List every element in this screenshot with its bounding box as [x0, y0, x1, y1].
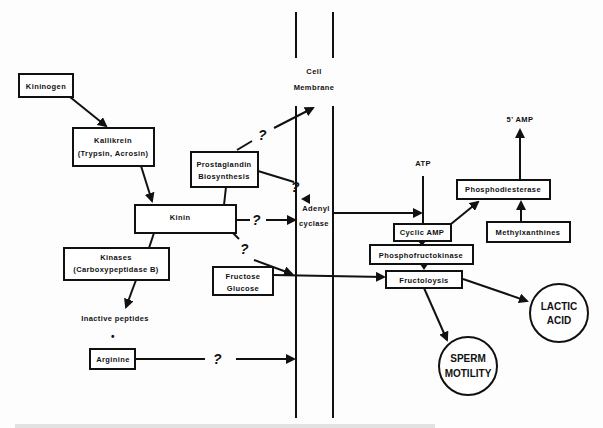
- inactive-peptides-label: Inactive peptides: [81, 314, 149, 323]
- question-mark: ?: [252, 212, 261, 228]
- bullet: •: [111, 331, 115, 342]
- cyclase-label: cyclase: [299, 219, 329, 228]
- question-mark: ?: [240, 241, 249, 257]
- arrow-fructolysis-sperm: [424, 288, 447, 340]
- node-prostaglandin: Prostaglandin Biosynthesis: [191, 152, 258, 187]
- node-kininogen: Kininogen: [19, 74, 73, 97]
- cell-membrane: Cell Membrane: [294, 12, 335, 418]
- diagram-canvas: Cell Membrane Kininogen Kallikrein (Tryp…: [0, 0, 603, 428]
- svg-text:Glucose: Glucose: [227, 284, 259, 293]
- line-prostaglandin-adenyl: [258, 171, 294, 182]
- arrow-kallikrein-kinin: [141, 166, 152, 201]
- arrow-kininogen-kallikrein: [70, 97, 106, 126]
- arrow-prostaglandin-membrane: [274, 108, 313, 128]
- adenyl-label: Adenyl: [302, 204, 329, 213]
- membrane-label-1: Cell: [306, 67, 321, 76]
- five-amp-label: 5' AMP: [507, 115, 534, 124]
- arrowhead-to-prostaglandin: [301, 194, 310, 204]
- arrow-kinases-inactive: [126, 280, 136, 307]
- svg-text:Kinin: Kinin: [170, 213, 191, 222]
- node-cyclic-amp: Cyclic AMP: [394, 224, 451, 241]
- svg-text:Phosphodiesterase: Phosphodiesterase: [465, 185, 541, 194]
- svg-text:Phosphofructokinase: Phosphofructokinase: [379, 251, 463, 260]
- connector-kinin-kinases: [149, 233, 154, 248]
- arrow-fructolysis-lactic: [463, 279, 527, 301]
- svg-text:(Carboxypeptidase B): (Carboxypeptidase B): [73, 265, 159, 274]
- node-fructose-glucose: Fructose Glucose: [213, 267, 273, 295]
- question-mark: ?: [258, 127, 267, 143]
- node-phosphodiesterase: Phosphodiesterase: [457, 180, 550, 199]
- node-sperm-motility: SPERM MOTILITY: [439, 337, 497, 395]
- arrow-cyclic-amp-phosphodiesterase: [451, 202, 478, 224]
- svg-text:ACID: ACID: [547, 315, 571, 326]
- node-arginine: Arginine: [90, 349, 135, 369]
- pathway-diagram: Cell Membrane Kininogen Kallikrein (Tryp…: [0, 0, 603, 428]
- svg-text:Methylxanthines: Methylxanthines: [496, 228, 561, 237]
- node-kinases: Kinases (Carboxypeptidase B): [64, 248, 169, 280]
- svg-text:(Trypsin, Acrosin): (Trypsin, Acrosin): [78, 149, 149, 158]
- membrane-label-2: Membrane: [294, 83, 335, 92]
- question-mark: ?: [213, 351, 222, 367]
- node-phosphofructokinase: Phosphofructokinase: [370, 245, 473, 264]
- svg-text:Prostaglandin: Prostaglandin: [196, 160, 251, 169]
- question-mark: ?: [291, 179, 300, 195]
- node-kinin: Kinin: [135, 205, 236, 233]
- node-methylxanthines: Methylxanthines: [487, 222, 570, 242]
- svg-text:Fructose: Fructose: [226, 272, 261, 281]
- arrow-fructose-fructolysis: [273, 275, 384, 277]
- atp-label: ATP: [415, 159, 431, 168]
- arrowhead-pfk-fructolysis: [420, 264, 428, 270]
- svg-text:LACTIC: LACTIC: [541, 301, 578, 312]
- connector-prostaglandin-kinin: [224, 187, 226, 205]
- node-kallikrein: Kallikrein (Trypsin, Acrosin): [73, 128, 154, 166]
- node-lactic-acid: LACTIC ACID: [530, 284, 588, 342]
- svg-text:SPERM: SPERM: [450, 353, 486, 364]
- line-prostaglandin-up: [237, 141, 252, 150]
- svg-text:Biosynthesis: Biosynthesis: [198, 172, 249, 181]
- svg-text:Kininogen: Kininogen: [26, 82, 66, 91]
- node-fructolysis: Fructoloysis: [386, 271, 462, 288]
- svg-text:Kinases: Kinases: [100, 253, 132, 262]
- svg-text:Arginine: Arginine: [96, 355, 130, 364]
- svg-text:MOTILITY: MOTILITY: [445, 368, 492, 379]
- svg-text:Fructoloysis: Fructoloysis: [399, 276, 448, 285]
- svg-text:Cyclic AMP: Cyclic AMP: [400, 228, 445, 237]
- svg-text:Kallikrein: Kallikrein: [94, 136, 132, 145]
- cropped-caption: [15, 424, 435, 428]
